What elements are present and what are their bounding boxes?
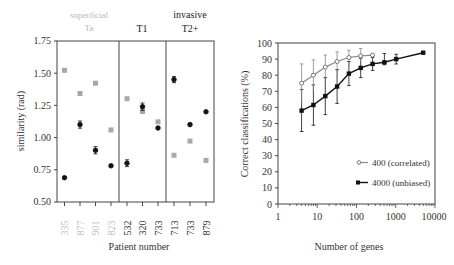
y-axis: 1.75 1.50 1.25 1.00 0.75 0.50 similarity… xyxy=(15,35,57,207)
header-superficial: superficial xyxy=(70,10,108,20)
patient-label: 823 xyxy=(106,221,117,236)
y-tick-label: 70 xyxy=(262,86,272,97)
legend-item-400-correlated: 400 (correlated) xyxy=(357,158,430,168)
patient-label: 733 xyxy=(153,221,164,236)
y-tick-label: 0.50 xyxy=(34,196,52,207)
x-tick-labels: 335 877 901 823 532 320 733 713 733 879 xyxy=(59,221,212,236)
x-axis-title: Patient number xyxy=(109,241,170,252)
y-tick-label: 20 xyxy=(262,166,272,177)
y-tick-label: 0.75 xyxy=(34,164,52,175)
y-tick-label: 1.25 xyxy=(34,100,52,111)
legend: 400 (correlated) 4000 (unbiased) xyxy=(356,158,430,188)
series-black-circles xyxy=(62,77,208,181)
legend-label: 400 (correlated) xyxy=(372,158,430,168)
y-tick-label: 30 xyxy=(262,150,272,161)
patient-label: 532 xyxy=(122,221,133,236)
series-4000-markers xyxy=(299,51,425,113)
x-axis-title: Number of genes xyxy=(315,241,384,252)
patient-label: 733 xyxy=(185,221,196,236)
open-circle-icon xyxy=(357,161,361,165)
x-tick-label: 1 xyxy=(276,211,281,222)
y-tick-label: 40 xyxy=(262,134,272,145)
legend-label: 4000 (unbiased) xyxy=(372,178,430,188)
x-tick-label: 1000 xyxy=(386,211,406,222)
y-tick-label: 80 xyxy=(262,70,272,81)
header-t1: T1 xyxy=(136,23,147,34)
y-tick-label: 60 xyxy=(262,102,272,113)
x-tick-label: 10 xyxy=(312,211,322,222)
patient-label: 320 xyxy=(137,221,148,236)
y-tick-label: 1.75 xyxy=(34,35,52,46)
y-tick-label: 100 xyxy=(257,38,272,49)
y-tick-label: 90 xyxy=(262,54,272,65)
patient-label: 879 xyxy=(201,221,212,236)
plot-frame xyxy=(57,41,214,202)
legend-item-4000-unbiased: 4000 (unbiased) xyxy=(356,178,430,188)
header-t2: T2+ xyxy=(182,23,199,34)
header-invasive: invasive xyxy=(173,9,207,20)
header-ta: Ta xyxy=(85,23,94,33)
patient-label: 901 xyxy=(90,221,101,236)
patient-label: 335 xyxy=(59,221,70,236)
x-tick-label: 100 xyxy=(349,211,364,222)
y-tick-label: 1.50 xyxy=(34,68,52,79)
x-tick-labels: 1 10 100 1000 10000 xyxy=(276,211,447,222)
y-axis-title: Correct classifications (%) xyxy=(239,71,251,178)
x-axis xyxy=(278,204,435,208)
y-tick-label: 1.00 xyxy=(34,132,52,143)
y-tick-label: 0 xyxy=(267,199,272,210)
filled-square-icon xyxy=(356,181,360,185)
y-tick-label: 50 xyxy=(262,118,272,129)
series-gray-squares xyxy=(62,68,209,163)
figure: superficial Ta T1 invasive T2+ 1.75 1.50… xyxy=(0,0,454,265)
x-tick-label: 10000 xyxy=(422,211,447,222)
patient-label: 713 xyxy=(169,221,180,236)
y-tick-label: 10 xyxy=(262,182,272,193)
x-axis xyxy=(65,202,207,206)
y-tick-labels: 100 90 80 70 60 50 40 30 20 10 0 xyxy=(257,38,272,210)
left-chart: superficial Ta T1 invasive T2+ 1.75 1.50… xyxy=(15,9,214,252)
y-axis-title: similarity (rad) xyxy=(15,91,27,151)
series-4000-unbiased xyxy=(300,53,423,132)
patient-label: 877 xyxy=(75,221,86,236)
right-chart: 100 90 80 70 60 50 40 30 20 10 0 Correct… xyxy=(239,38,447,253)
